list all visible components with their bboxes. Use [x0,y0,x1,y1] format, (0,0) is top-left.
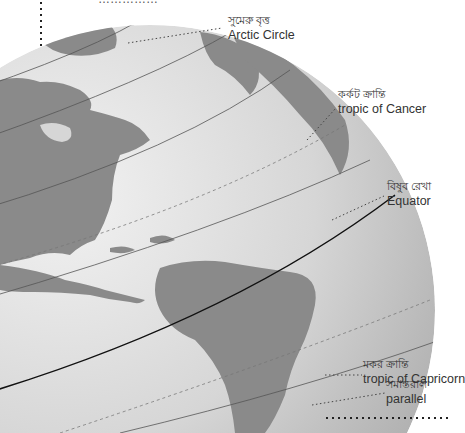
label-bn: সমান্তরাল [386,378,427,392]
label-bn: মকর ক্রান্তি [363,358,465,372]
label-en: Equator [387,194,432,208]
label-bn: বিষুব রেখা [387,180,432,194]
label-en: parallel [386,392,427,406]
label-en: Arctic Circle [228,28,295,42]
cropped-title: …………… [98,0,158,6]
label-equator: বিষুব রেখা Equator [387,180,432,208]
label-tropic-of-cancer: কর্কট ক্রান্তি tropic of Cancer [338,88,426,116]
label-bn: কর্কট ক্রান্তি [338,88,426,102]
label-en: tropic of Cancer [338,102,426,116]
label-parallel: সমান্তরাল parallel [386,378,427,406]
land-iceland [120,18,140,26]
label-bn: সুমেরু বৃত্ত [228,14,295,28]
label-arctic-circle: সুমেরু বৃত্ত Arctic Circle [228,14,295,42]
